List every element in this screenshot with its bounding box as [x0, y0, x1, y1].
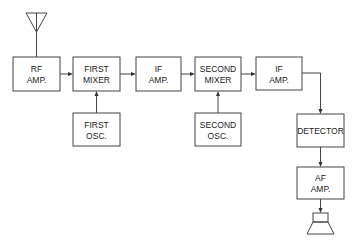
arrow-if1-to-mixer2 — [181, 72, 195, 76]
block-label: SECOND — [200, 64, 236, 74]
block-label: MIXER — [83, 75, 110, 85]
block-label: IF — [155, 64, 163, 74]
arrow-rf-to-mixer1 — [60, 72, 73, 76]
block-label: RF — [31, 64, 42, 74]
arrow-mixer1-to-if1 — [120, 72, 136, 76]
arrow-osc2-to-mixer2 — [216, 91, 220, 113]
block-second-osc: SECOND OSC. — [195, 113, 241, 146]
block-second-mixer: SECOND MIXER — [195, 57, 241, 91]
arrow-mixer2-to-if2 — [241, 72, 256, 76]
block-diagram: RF AMP. FIRST MIXER IF AMP. SECOND MIXER… — [0, 0, 357, 249]
block-label: SECOND — [200, 120, 236, 130]
block-label: AMP. — [27, 75, 47, 85]
block-label: FIRST — [84, 120, 109, 130]
block-rf-amp: RF AMP. — [13, 57, 60, 91]
block-label: IF — [275, 64, 283, 74]
block-label: OSC. — [86, 131, 107, 141]
block-label: AMP. — [311, 184, 331, 194]
block-if-amp-2: IF AMP. — [256, 57, 302, 90]
block-label: AMP. — [269, 75, 289, 85]
block-label: FIRST — [84, 64, 109, 74]
arrow-af-to-speaker — [319, 199, 323, 213]
block-label: DETECTOR — [297, 126, 344, 136]
block-label: AF — [315, 173, 326, 183]
block-label: AMP. — [149, 75, 169, 85]
arrow-detector-to-af — [319, 147, 323, 167]
speaker-icon — [307, 213, 334, 234]
arrow-osc1-to-mixer1 — [95, 91, 99, 113]
block-detector: DETECTOR — [297, 114, 344, 147]
block-first-osc: FIRST OSC. — [73, 113, 120, 146]
arrow-if2-to-detector — [302, 73, 323, 114]
block-if-amp-1: IF AMP. — [136, 57, 181, 91]
block-label: OSC. — [208, 131, 229, 141]
block-first-mixer: FIRST MIXER — [73, 57, 120, 91]
antenna-icon — [26, 13, 47, 57]
block-af-amp: AF AMP. — [297, 167, 344, 199]
block-label: MIXER — [205, 75, 232, 85]
